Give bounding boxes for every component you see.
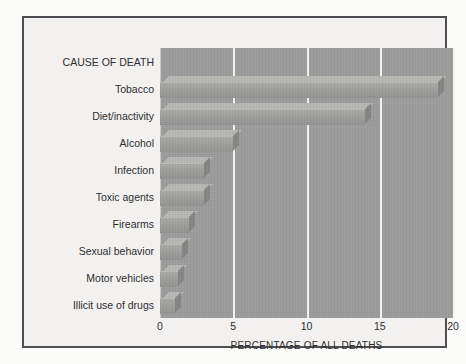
x-tick-label: 0 bbox=[157, 320, 163, 332]
y-axis-header-label: CAUSE OF DEATH bbox=[63, 56, 154, 68]
x-axis-title: PERCENTAGE OF ALL DEATHS bbox=[160, 340, 453, 351]
category-label: Firearms bbox=[113, 218, 154, 230]
bar-front-face bbox=[160, 298, 175, 314]
bar-front-face bbox=[160, 244, 182, 260]
bar-side-face bbox=[233, 130, 239, 151]
bar bbox=[160, 211, 195, 238]
bar-front-face bbox=[160, 82, 438, 98]
x-tick-label: 10 bbox=[301, 320, 313, 332]
bar bbox=[160, 184, 210, 211]
bar bbox=[160, 157, 210, 184]
category-label-column: CAUSE OF DEATHTobaccoDiet/inactivityAlco… bbox=[50, 48, 154, 318]
bar bbox=[160, 76, 444, 103]
category-label: Illicit use of drugs bbox=[73, 299, 154, 311]
chart-frame: CAUSE OF DEATHTobaccoDiet/inactivityAlco… bbox=[22, 16, 447, 348]
x-tick-label: 20 bbox=[447, 320, 459, 332]
bar-side-face bbox=[189, 211, 195, 232]
category-label: Sexual behavior bbox=[79, 245, 154, 257]
gridline-20 bbox=[453, 48, 455, 318]
x-tick-label: 15 bbox=[374, 320, 386, 332]
bar bbox=[160, 130, 239, 157]
category-label: Diet/inactivity bbox=[92, 110, 154, 122]
bar-side-face bbox=[365, 103, 371, 124]
bar-front-face bbox=[160, 109, 365, 125]
bar-side-face bbox=[438, 76, 444, 97]
x-tick-label: 5 bbox=[230, 320, 236, 332]
bar-front-face bbox=[160, 217, 189, 233]
category-label: Alcohol bbox=[120, 137, 154, 149]
bar-front-face bbox=[160, 136, 233, 152]
category-label: Toxic agents bbox=[96, 191, 154, 203]
category-label: Infection bbox=[114, 164, 154, 176]
plot-area bbox=[160, 48, 453, 318]
category-label: Tobacco bbox=[115, 83, 154, 95]
bar bbox=[160, 103, 371, 130]
bar bbox=[160, 292, 181, 319]
bar-front-face bbox=[160, 190, 204, 206]
bar-front-face bbox=[160, 271, 178, 287]
figure-root: CAUSE OF DEATHTobaccoDiet/inactivityAlco… bbox=[0, 0, 466, 364]
bar bbox=[160, 265, 184, 292]
bar bbox=[160, 238, 188, 265]
bar-front-face bbox=[160, 163, 204, 179]
category-label: Motor vehicles bbox=[86, 272, 154, 284]
x-axis-ticks: 05101520 bbox=[160, 320, 453, 336]
